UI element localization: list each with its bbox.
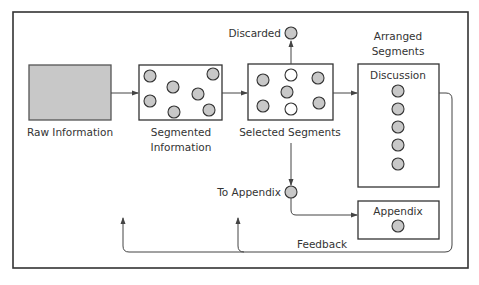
removed-segment-circle [285,69,297,81]
raw-information-label: Raw Information [27,126,113,138]
feedback-loop-to-selection [238,218,244,252]
segment-circle [257,100,269,112]
to-appendix-segment-circle [285,186,297,198]
segment-circle [144,95,156,107]
to-appendix-label: To Appendix [216,186,281,198]
arranged-label-line2: Segments [372,45,425,57]
appendix-segment-circle [392,220,404,232]
segment-circle [312,72,324,84]
segment-circle [392,139,404,151]
segment-circle [203,104,215,116]
segmented-label-line1: Segmented [151,126,211,138]
segment-circle [392,85,404,97]
segment-circle [281,86,293,98]
discussion-label: Discussion [370,69,426,81]
feedback-label: Feedback [297,238,348,250]
segment-circle [168,106,180,118]
segment-circle [257,74,269,86]
segment-circle [167,81,179,93]
segment-circle [392,121,404,133]
segment-circle [144,70,156,82]
arrow-to-appendix-box [291,198,357,215]
information-flow-diagram: Raw Information Segmented Information Se… [0,0,479,285]
appendix-label: Appendix [373,205,422,217]
segment-circle [313,97,325,109]
arranged-label-line1: Arranged [374,30,423,42]
selected-segments-label: Selected Segments [239,126,341,138]
removed-segment-circle [285,103,297,115]
segment-circle [207,68,219,80]
segmented-label-line2: Information [151,141,212,153]
segment-circle [392,158,404,170]
segment-circle [392,103,404,115]
raw-information-box [29,65,111,120]
discarded-segment-circle [285,27,297,39]
segment-circle [192,88,204,100]
discarded-label: Discarded [228,27,281,39]
